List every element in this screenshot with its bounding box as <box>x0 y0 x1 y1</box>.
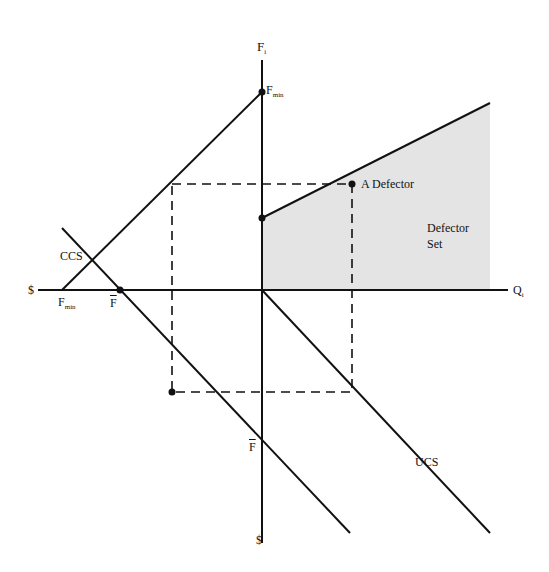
horizontal-axis-left-label: $ <box>28 284 34 296</box>
boundary-intercept-point <box>259 215 266 222</box>
a-defector-label: A Defector <box>361 178 414 190</box>
fmin-horizontal-label: Fmin <box>58 296 76 311</box>
rectangle-corner-point <box>169 389 176 396</box>
fbar-horizontal-label: F <box>110 297 117 309</box>
vertical-axis-bottom-label: $ <box>256 534 262 546</box>
vertical-axis-top-label: Fi <box>257 40 266 56</box>
horizontal-axis-right-label: Qi <box>513 284 524 299</box>
fbar-horizontal-point <box>117 287 124 294</box>
fmin-vertical-point <box>259 89 266 96</box>
fbar-vertical-label: F <box>249 441 256 453</box>
fmin-h-sub: min <box>65 303 76 311</box>
ucs-label: UCS <box>415 456 438 468</box>
defector-set-region <box>262 103 490 290</box>
qi-text: Q <box>513 283 522 297</box>
a-defector-point <box>349 181 356 188</box>
fmin-v-sub: min <box>273 91 284 99</box>
ucs-line <box>262 290 490 533</box>
fmin-h-text: F <box>58 295 65 309</box>
fmin-v-text: F <box>266 83 273 97</box>
fmin-vertical-label: Fmin <box>266 84 284 99</box>
ccs-label: CCS <box>60 250 83 262</box>
defector-set-label-2: Set <box>427 238 442 250</box>
qi-sub: i <box>522 291 524 299</box>
defector-set-label-1: Defector <box>427 222 469 234</box>
fi-sub: i <box>264 48 266 56</box>
